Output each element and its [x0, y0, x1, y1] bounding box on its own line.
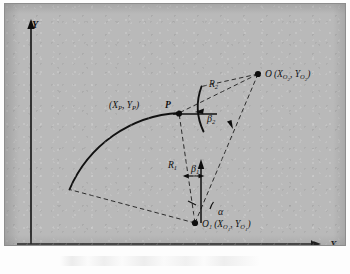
beta2-sub: 2	[212, 118, 216, 125]
point-P-coord-label: (XP, YP)	[109, 100, 139, 111]
alpha-angle-arc	[210, 202, 214, 209]
x-axis-label: X	[329, 239, 337, 246]
arc-R2-path	[198, 87, 204, 132]
x-axis-arrowhead	[311, 240, 321, 246]
arc-R1-path	[70, 113, 180, 190]
figure-root: Y X (XP, YP) P O(XO2, YO2) O1(XO1, YO1)	[0, 0, 350, 274]
axes-group	[17, 19, 321, 246]
point-P-marker-label: P	[165, 100, 171, 110]
radius-R1-label: R1	[167, 160, 177, 171]
beta2-arrow-at-P	[195, 109, 204, 115]
figure-frame: Y X (XP, YP) P O(XO2, YO2) O1(XO1, YO1)	[4, 3, 346, 246]
caption-smudge-residue	[60, 256, 260, 266]
point-O1-label-group: O1(XO1, YO1)	[202, 219, 251, 232]
point-markers	[176, 71, 261, 226]
arc-lower-left	[70, 113, 180, 190]
r2-sub: 2	[215, 83, 219, 90]
o1-marker-sub: 1	[209, 223, 212, 230]
point-P-dot	[176, 110, 182, 116]
p-coord-close: )	[135, 100, 139, 111]
point-O1-label: O1(XO1, YO1)	[202, 219, 251, 232]
angle-beta2-label: β2	[206, 113, 216, 125]
o-coord-close: )	[306, 69, 310, 80]
angle-alpha-label: α	[218, 206, 224, 217]
beta2-arrow-lower	[227, 120, 233, 129]
point-P-label-group: (XP, YP) P	[109, 100, 171, 111]
o1-coord-close: )	[247, 219, 251, 230]
dashed-O-to-P-radius-R2	[179, 74, 258, 113]
radius-R2-label: R2	[208, 79, 219, 90]
dashed-O1-to-O-centerline	[195, 74, 258, 223]
y-axis-label: Y	[32, 19, 39, 30]
point-O-dot	[255, 71, 261, 77]
beta1-arrow-left	[183, 174, 189, 178]
angle-beta1-label: β1	[190, 163, 199, 175]
o-marker: O	[265, 69, 272, 79]
geometry-diagram: Y X (XP, YP) P O(XO2, YO2) O1(XO1, YO1)	[5, 4, 346, 246]
point-O-label: O(XO2, YO2)	[265, 69, 310, 82]
arc-upper-right	[198, 87, 204, 132]
r1-sub: 1	[174, 164, 177, 171]
point-O-label-group: O(XO2, YO2)	[265, 69, 310, 82]
point-O1-dot	[192, 220, 198, 226]
dashed-O1-to-arc-start	[70, 190, 196, 224]
beta1-sub: 1	[196, 168, 199, 175]
